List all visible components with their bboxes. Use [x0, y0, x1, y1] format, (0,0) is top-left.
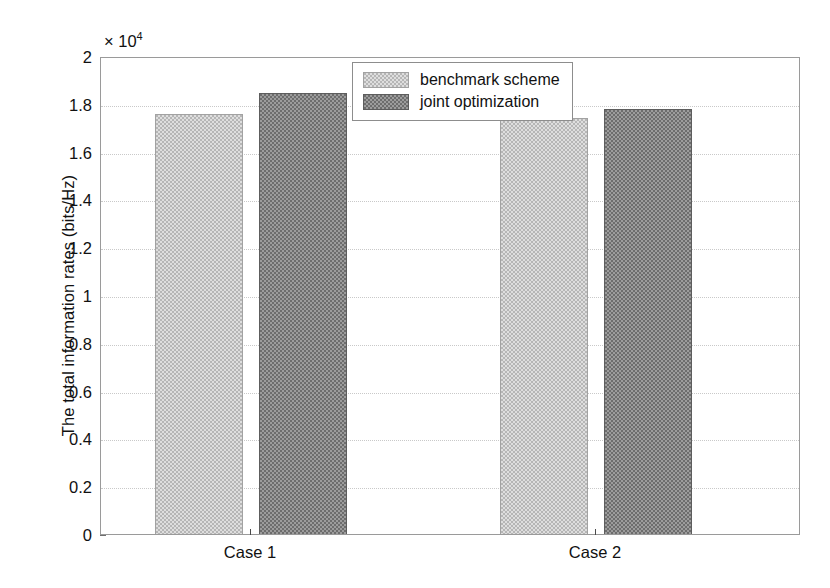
x-axis-tick-mark — [595, 529, 596, 535]
y-axis-tick-label: 0.2 — [12, 478, 92, 497]
legend-item-benchmark-scheme: benchmark scheme — [363, 69, 560, 91]
y-axis-multiplier-mantissa: × 10 — [104, 32, 137, 50]
y-axis-multiplier-exponent: 4 — [137, 30, 143, 42]
y-axis-tick-mark — [100, 535, 106, 536]
legend-swatch-benchmark-scheme — [363, 72, 409, 88]
y-axis-tick-label: 0 — [12, 526, 92, 545]
y-axis-tick-label: 1 — [12, 287, 92, 306]
plot-area — [100, 57, 800, 535]
y-axis-tick-label: 0.4 — [12, 430, 92, 449]
x-axis-tick-label: Case 1 — [150, 543, 350, 562]
plot-clip — [101, 58, 799, 534]
legend-label-benchmark-scheme: benchmark scheme — [420, 71, 560, 89]
bar-joint-optimization-case-1 — [259, 93, 347, 534]
y-axis-tick-label: 1.6 — [12, 143, 92, 162]
y-axis-tick-label: 1.2 — [12, 239, 92, 258]
x-axis-tick-label: Case 2 — [495, 543, 695, 562]
y-axis-tick-label: 2 — [12, 48, 92, 67]
legend-swatch-joint-optimization — [363, 94, 409, 110]
y-axis-tick-label: 1.8 — [12, 95, 92, 114]
bar-benchmark-scheme-case-1 — [155, 114, 243, 534]
legend-label-joint-optimization: joint optimization — [420, 93, 539, 111]
y-axis-tick-label: 1.4 — [12, 191, 92, 210]
bar-chart-figure: × 104 The total information rates (bits/… — [0, 0, 830, 588]
y-axis-multiplier: × 104 — [104, 30, 143, 51]
y-axis-tick-label: 0.8 — [12, 334, 92, 353]
x-axis-tick-mark — [250, 529, 251, 535]
bar-joint-optimization-case-2 — [604, 109, 692, 534]
y-axis-tick-label: 0.6 — [12, 382, 92, 401]
bar-benchmark-scheme-case-2 — [500, 118, 588, 534]
chart-legend: benchmark scheme joint optimization — [352, 62, 573, 121]
legend-item-joint-optimization: joint optimization — [363, 91, 560, 113]
